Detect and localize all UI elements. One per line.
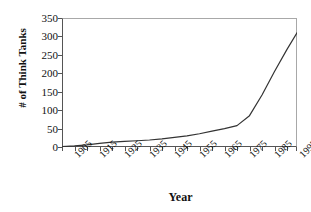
x-tick-label: 1965 [222, 152, 230, 160]
x-tick-label: 1925 [122, 152, 130, 160]
chart-page: 350300250200150100500 # of Think Tanks 1… [0, 0, 311, 212]
x-tick-label: 1995 [297, 152, 305, 160]
y-axis-title: # of Think Tanks [16, 8, 28, 128]
x-tick-label: 1955 [197, 152, 205, 160]
x-tick-label: 1975 [247, 152, 255, 160]
y-tick-mark [58, 36, 62, 37]
y-tick-mark [58, 73, 62, 74]
y-tick-mark [58, 55, 62, 56]
y-tick-mark [58, 110, 62, 111]
x-tick-label: 1935 [147, 152, 155, 160]
series-polyline [62, 33, 297, 147]
y-tick-mark [58, 18, 62, 19]
line-series-think-tanks [62, 18, 297, 147]
x-tick-label: 1985 [272, 152, 280, 160]
x-tick-label: 1915 [97, 152, 105, 160]
x-axis-tick-labels: 1905191519251935194519551965197519851995 [0, 152, 311, 186]
x-tick-label: 1905 [72, 152, 80, 160]
y-tick-mark [58, 92, 62, 93]
x-tick-mark [62, 147, 63, 151]
y-tick-mark [58, 129, 62, 130]
x-axis-title: Year [0, 190, 311, 205]
x-tick-label: 1945 [172, 152, 180, 160]
y-axis-tick-marks [58, 18, 63, 147]
